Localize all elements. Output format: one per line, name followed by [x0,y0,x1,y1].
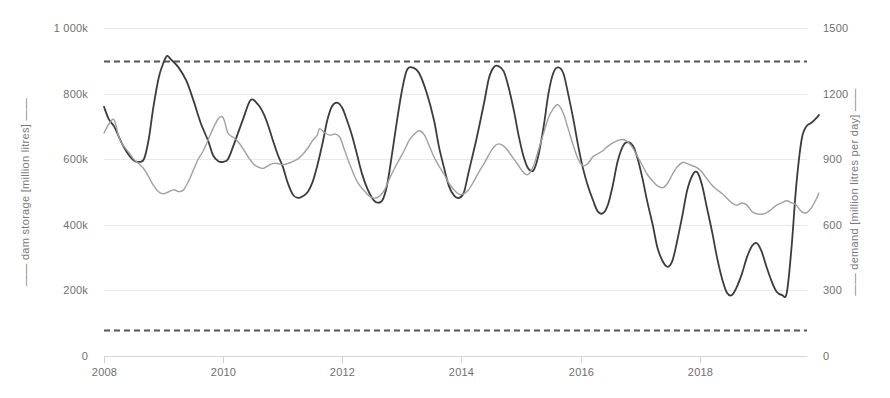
x-tick-label: 2010 [211,366,236,378]
right-axis-ticks: 030060090012001500 [823,22,848,362]
left-tick-label: 0 [82,350,88,362]
x-tick-label: 2008 [92,366,117,378]
chart-container: 0200k400k600k800k1 000k 0300600900120015… [0,0,890,398]
series-line-dam-storage [104,56,819,297]
x-tick-label: 2014 [449,366,474,378]
grid-lines [104,29,807,291]
left-axis-title: —— dam storage [million litres] —— [19,98,31,286]
right-tick-label: 900 [823,153,842,165]
right-tick-label: 0 [823,350,829,362]
left-tick-label: 1 000k [54,22,89,34]
series-lines [104,56,819,297]
right-axis-title: —— demand [million litres per day] —— [848,88,860,295]
right-axis-title-group: —— demand [million litres per day] —— [848,88,860,295]
left-tick-label: 400k [63,219,88,231]
left-axis-ticks: 0200k400k600k800k1 000k [54,22,89,362]
right-tick-label: 600 [823,219,842,231]
water-storage-demand-chart: 0200k400k600k800k1 000k 0300600900120015… [0,0,890,398]
left-tick-label: 600k [63,153,88,165]
right-tick-label: 1200 [823,88,848,100]
right-tick-label: 1500 [823,22,848,34]
left-axis-title-group: —— dam storage [million litres] —— [19,98,31,286]
left-tick-label: 800k [63,88,88,100]
x-tick-label: 2012 [330,366,355,378]
left-tick-label: 200k [63,284,88,296]
x-tick-label: 2016 [569,366,594,378]
x-axis: 200820102012201420162018 [92,357,807,378]
x-tick-label: 2018 [688,366,713,378]
right-tick-label: 300 [823,284,842,296]
